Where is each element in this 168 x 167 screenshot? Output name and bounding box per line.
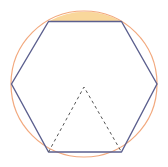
diagram-canvas bbox=[0, 0, 168, 167]
circumscribed-circle bbox=[11, 11, 157, 157]
dashed-center-triangle bbox=[49, 87, 122, 152]
hexagon-in-circle-diagram bbox=[0, 0, 168, 167]
